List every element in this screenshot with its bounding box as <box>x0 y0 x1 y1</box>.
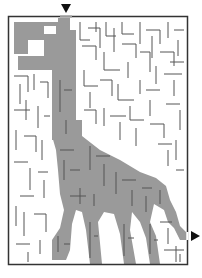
exit-arrow-icon <box>191 231 200 241</box>
dinosaur-silhouette <box>14 18 186 264</box>
maze-board[interactable] <box>0 0 202 278</box>
entry-arrow-icon <box>61 4 71 13</box>
